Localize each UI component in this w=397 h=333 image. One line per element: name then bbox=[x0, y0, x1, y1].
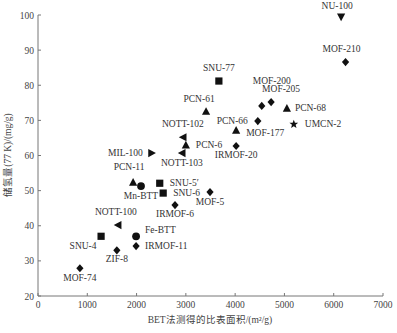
square-marker-icon bbox=[215, 77, 222, 84]
point-label: NOTT-102 bbox=[162, 119, 204, 129]
data-point: ZIF-8 bbox=[106, 246, 128, 264]
data-point: PCN-61 bbox=[183, 94, 214, 115]
data-point: PCN-6 bbox=[182, 140, 223, 150]
point-label: PCN-6 bbox=[196, 140, 223, 150]
data-point: IRMOF-11 bbox=[132, 241, 187, 251]
x-tick-label: 1000 bbox=[78, 300, 97, 310]
y-tick-label: 50 bbox=[25, 186, 35, 196]
circle-marker-icon bbox=[132, 232, 140, 240]
point-label: IRMOF-20 bbox=[215, 150, 258, 160]
circle-marker-icon bbox=[137, 182, 145, 190]
triangle-left-marker-icon bbox=[179, 133, 187, 141]
point-label: MOF-177 bbox=[246, 128, 284, 138]
triangle-left-marker-icon bbox=[114, 221, 122, 229]
point-label: PCN-66 bbox=[217, 116, 248, 126]
point-label: MOF-5 bbox=[196, 197, 225, 207]
data-point: NOTT-103 bbox=[161, 149, 203, 168]
point-label: MOF-205 bbox=[262, 84, 300, 94]
point-label: MIL-100 bbox=[108, 148, 143, 158]
data-point: NOTT-100 bbox=[95, 207, 137, 229]
x-tick-label: 7000 bbox=[374, 300, 393, 310]
diamond-marker-icon bbox=[132, 242, 139, 250]
point-label: IRMOF-11 bbox=[145, 241, 188, 251]
point-label: SNU-4 bbox=[70, 241, 97, 251]
point-label: PCN-61 bbox=[183, 94, 214, 104]
triangle-up-marker-icon bbox=[202, 107, 210, 115]
data-point: Fe-BTT bbox=[132, 225, 176, 240]
point-label: MOF-210 bbox=[323, 44, 361, 54]
triangle-up-marker-icon bbox=[182, 141, 190, 149]
y-tick-label: 100 bbox=[20, 11, 35, 21]
point-label: SNU-5′ bbox=[170, 178, 199, 188]
square-marker-icon bbox=[97, 233, 104, 240]
diamond-marker-icon bbox=[268, 98, 275, 106]
data-point: MOF-177 bbox=[232, 126, 284, 138]
square-marker-icon bbox=[160, 189, 167, 196]
point-label: UMCN-2 bbox=[305, 119, 342, 129]
data-point: UMCN-2 bbox=[289, 119, 341, 129]
triangle-up-marker-icon bbox=[283, 104, 291, 112]
data-point: PCN-11 bbox=[114, 162, 145, 186]
y-tick-label: 70 bbox=[25, 116, 35, 126]
y-tick-label: 60 bbox=[25, 151, 35, 161]
point-label: PCN-68 bbox=[295, 103, 326, 113]
point-label: IRMOF-6 bbox=[156, 209, 194, 219]
axes bbox=[38, 15, 383, 296]
x-tick-label: 5000 bbox=[275, 300, 294, 310]
point-label: ZIF-8 bbox=[106, 254, 128, 264]
point-label: Fe-BTT bbox=[145, 225, 176, 235]
data-point: SNU-4 bbox=[70, 233, 105, 252]
data-point: MOF-74 bbox=[63, 264, 97, 283]
x-tick-label: 6000 bbox=[324, 300, 343, 310]
triangle-up-marker-icon bbox=[129, 178, 137, 186]
y-tick-label: 30 bbox=[25, 256, 35, 266]
data-point: SNU-6 bbox=[160, 188, 201, 198]
point-label: SNU-77 bbox=[203, 63, 235, 73]
y-axis-title: 储氢量(77 K)/(mg/g) bbox=[2, 113, 14, 197]
scatter-chart: 01000200030004000500060007000 2030405060… bbox=[0, 0, 397, 333]
diamond-marker-icon bbox=[233, 142, 240, 150]
x-tick-label: 0 bbox=[36, 300, 41, 310]
data-point: NOTT-102 bbox=[162, 119, 204, 141]
triangle-right-marker-icon bbox=[148, 149, 156, 157]
data-point: SNU-77 bbox=[203, 63, 235, 85]
data-point: NU-100 bbox=[322, 1, 353, 21]
data-point: MOF-210 bbox=[323, 44, 361, 66]
y-tick-label: 80 bbox=[25, 81, 35, 91]
square-marker-icon bbox=[156, 180, 163, 187]
diamond-marker-icon bbox=[113, 246, 120, 254]
data-point: PCN-68 bbox=[283, 103, 326, 113]
data-point: MIL-100 bbox=[108, 148, 156, 158]
point-label: Mn-BTT bbox=[124, 191, 159, 201]
y-tick-label: 40 bbox=[25, 221, 35, 231]
diamond-marker-icon bbox=[206, 188, 213, 196]
y-tick-label: 90 bbox=[25, 46, 35, 56]
x-tick-label: 3000 bbox=[176, 300, 195, 310]
triangle-up-marker-icon bbox=[232, 126, 240, 134]
diamond-marker-icon bbox=[171, 201, 178, 209]
triangle-down-marker-icon bbox=[337, 14, 345, 22]
point-label: NU-100 bbox=[322, 1, 353, 11]
point-label: MOF-74 bbox=[63, 273, 97, 283]
x-tick-label: 4000 bbox=[226, 300, 245, 310]
triangle-left-marker-icon bbox=[178, 149, 186, 157]
diamond-marker-icon bbox=[254, 117, 261, 125]
data-point: PCN-66 bbox=[217, 116, 262, 126]
data-points: NU-100MOF-210SNU-77MOF-200MOF-205PCN-68P… bbox=[63, 1, 361, 283]
data-point: SNU-5′ bbox=[156, 178, 199, 188]
data-point: Mn-BTT bbox=[124, 182, 159, 201]
diamond-marker-icon bbox=[342, 58, 349, 66]
star-marker-icon bbox=[289, 120, 298, 128]
y-tick-label: 20 bbox=[25, 292, 35, 302]
point-label: NOTT-100 bbox=[95, 207, 137, 217]
diamond-marker-icon bbox=[76, 264, 83, 272]
x-axis-title: BET法测得的比表面积/(m²/g) bbox=[148, 314, 273, 326]
diamond-marker-icon bbox=[258, 102, 265, 110]
x-tick-label: 2000 bbox=[127, 300, 146, 310]
point-label: NOTT-103 bbox=[161, 158, 203, 168]
point-label: PCN-11 bbox=[114, 162, 145, 172]
data-point: IRMOF-6 bbox=[156, 201, 194, 219]
